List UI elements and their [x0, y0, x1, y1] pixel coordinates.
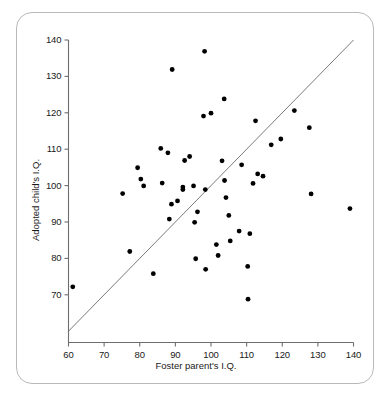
y-tick-label: 130 — [29, 70, 62, 81]
y-axis-ticks — [65, 40, 69, 295]
data-point — [167, 217, 172, 222]
data-point — [348, 206, 353, 211]
data-point — [195, 209, 200, 214]
data-point — [202, 49, 207, 54]
x-tick-label: 90 — [159, 349, 191, 360]
data-point — [278, 137, 283, 142]
data-point — [70, 284, 75, 289]
data-point — [151, 271, 156, 276]
data-point — [203, 267, 208, 272]
data-point — [165, 150, 170, 155]
data-point — [127, 249, 132, 254]
data-point — [224, 195, 229, 200]
identity-reference-line — [69, 40, 354, 331]
data-point — [222, 178, 227, 183]
x-tick-label: 130 — [302, 349, 334, 360]
x-axis-title: Foster parent's I.Q. — [0, 360, 392, 371]
data-point — [261, 174, 266, 179]
data-point — [169, 202, 174, 207]
data-point — [307, 125, 312, 130]
y-tick-label: 140 — [29, 34, 62, 45]
data-point — [216, 253, 221, 258]
data-point — [239, 162, 244, 167]
y-axis-title-text: Adopted child's I.Q. — [30, 120, 41, 280]
y-axis-title: Adopted child's I.Q. — [30, 120, 44, 280]
x-tick-label: 100 — [195, 349, 227, 360]
x-tick-label: 110 — [231, 349, 263, 360]
y-tick-label: 70 — [29, 289, 62, 300]
data-point — [182, 158, 187, 163]
data-point — [138, 177, 143, 182]
data-point — [292, 108, 297, 113]
y-tick-label: 120 — [29, 107, 62, 118]
data-point — [309, 192, 314, 197]
x-tick-label: 80 — [124, 349, 156, 360]
data-point — [209, 111, 214, 116]
data-point — [141, 184, 146, 189]
data-point — [214, 242, 219, 247]
data-point — [269, 142, 274, 147]
data-point — [135, 165, 140, 170]
data-point — [170, 67, 175, 72]
data-point — [187, 154, 192, 159]
x-tick-label: 70 — [88, 349, 120, 360]
data-point — [180, 187, 185, 192]
data-point — [251, 181, 256, 186]
data-point — [191, 184, 196, 189]
data-point — [247, 231, 252, 236]
data-point — [255, 172, 260, 177]
data-point — [253, 118, 258, 123]
data-point — [246, 297, 251, 302]
x-tick-label: 140 — [338, 349, 370, 360]
data-point — [193, 256, 198, 261]
data-point — [192, 220, 197, 225]
data-point — [237, 229, 242, 234]
axis-lines — [68, 40, 354, 343]
data-point — [245, 264, 250, 269]
data-point — [203, 187, 208, 192]
data-point — [175, 198, 180, 203]
scatter-plot — [0, 0, 392, 399]
data-point — [160, 181, 165, 186]
data-points — [70, 49, 352, 302]
x-axis-ticks — [69, 343, 354, 347]
data-point — [226, 213, 231, 218]
data-point — [158, 146, 163, 151]
x-tick-label: 60 — [53, 349, 85, 360]
data-point — [120, 191, 125, 196]
data-point — [222, 97, 227, 102]
data-point — [201, 114, 206, 119]
data-point — [228, 239, 233, 244]
data-point — [220, 158, 225, 163]
x-tick-label: 120 — [266, 349, 298, 360]
